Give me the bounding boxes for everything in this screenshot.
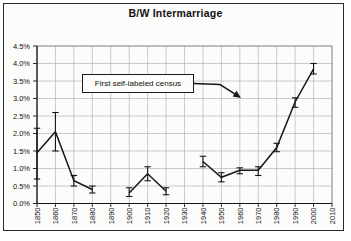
y-tick-label: 0.0%	[13, 199, 30, 208]
x-tick-label: 1870	[70, 208, 79, 225]
y-tick-label: 0.5%	[13, 182, 30, 191]
x-tick-label: 1990	[291, 208, 300, 225]
line-chart: 0.0%0.5%1.0%1.5%2.0%2.5%3.0%3.5%4.0%4.5%…	[0, 0, 351, 241]
x-tick-label: 1910	[143, 208, 152, 225]
x-tick-label: 1850	[33, 208, 42, 225]
x-tick-label: 1890	[107, 208, 116, 225]
x-tick-label: 1970	[254, 208, 263, 225]
x-tick-label: 1880	[88, 208, 97, 225]
tick-labels: 0.0%0.5%1.0%1.5%2.0%2.5%3.0%3.5%4.0%4.5%…	[13, 42, 337, 225]
annotation-arrow	[193, 84, 241, 99]
y-tick-label: 3.5%	[13, 77, 30, 86]
x-tick-label: 1940	[199, 208, 208, 225]
error-bar	[34, 128, 40, 179]
x-tick-label: 1930	[180, 208, 189, 225]
x-tick-label: 1950	[217, 208, 226, 225]
y-tick-label: 4.0%	[13, 59, 30, 68]
error-bar	[89, 186, 95, 193]
x-tick-label: 1920	[162, 208, 171, 225]
x-tick-label: 2010	[328, 208, 337, 225]
y-tick-label: 2.0%	[13, 129, 30, 138]
annotation-text: First self-labeled census	[95, 79, 181, 88]
y-tick-label: 3.0%	[13, 94, 30, 103]
y-tick-label: 4.5%	[13, 42, 30, 51]
y-tick-label: 1.0%	[13, 164, 30, 173]
x-tick-label: 1860	[51, 208, 60, 225]
gridlines	[37, 46, 332, 204]
x-tick-label: 2000	[309, 208, 318, 225]
annotation-arrow-line	[193, 84, 235, 94]
y-tick-label: 1.5%	[13, 147, 30, 156]
x-tick-label: 1980	[272, 208, 281, 225]
annotation-callout: First self-labeled census	[82, 74, 194, 93]
x-tick-label: 1960	[236, 207, 245, 224]
x-tick-label: 1900	[125, 208, 134, 225]
y-tick-label: 2.5%	[13, 112, 30, 121]
